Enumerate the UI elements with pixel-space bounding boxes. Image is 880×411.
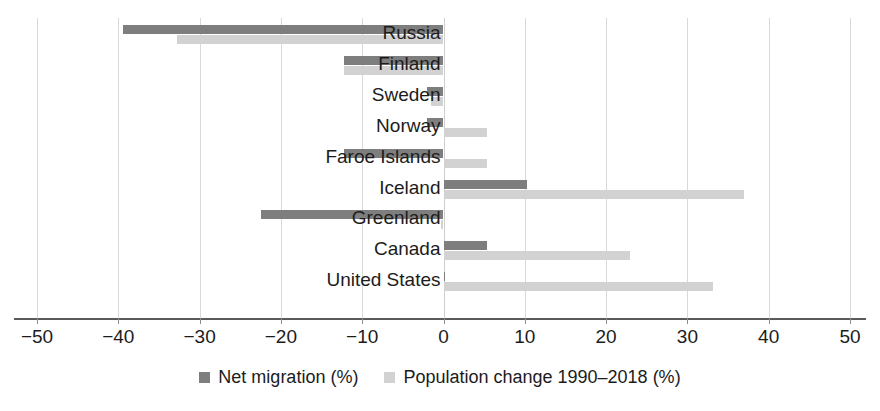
category-label-united-states: United States [1, 268, 441, 292]
tick-mark--20 [281, 318, 282, 324]
tick-mark-20 [606, 318, 607, 324]
bar-net-migration [444, 180, 528, 189]
bar-population-change [444, 159, 488, 168]
bar-chart: RussiaFinlandSwedenNorwayFaroe IslandsIc… [0, 0, 880, 411]
category-label-greenland: Greenland [1, 206, 441, 230]
tick-mark--10 [362, 318, 363, 324]
tick-mark--40 [118, 318, 119, 324]
tick-label-30: 30 [652, 326, 722, 348]
tick-label-10: 10 [490, 326, 560, 348]
legend-swatch-icon [384, 372, 395, 383]
tick-label--10: −10 [327, 326, 397, 348]
tick-label--40: −40 [83, 326, 153, 348]
legend-item-population-change[interactable]: Population change 1990–2018 (%) [384, 367, 680, 388]
tick-label-0: 0 [409, 326, 479, 348]
tick-mark-10 [525, 318, 526, 324]
legend-label: Net migration (%) [218, 367, 358, 388]
x-axis-line [14, 318, 866, 320]
category-label-finland: Finland [1, 52, 441, 76]
category-label-iceland: Iceland [1, 176, 441, 200]
tick-mark--30 [200, 318, 201, 324]
category-label-russia: Russia [1, 21, 441, 45]
tick-label--50: −50 [2, 326, 72, 348]
tick-label--30: −30 [165, 326, 235, 348]
tick-mark-50 [850, 318, 851, 324]
bar-population-change [444, 190, 745, 199]
bar-net-migration [444, 241, 488, 250]
tick-mark--50 [37, 318, 38, 324]
category-label-sweden: Sweden [1, 83, 441, 107]
legend-label: Population change 1990–2018 (%) [403, 367, 680, 388]
category-label-norway: Norway [1, 114, 441, 138]
tick-mark-40 [769, 318, 770, 324]
bar-population-change [444, 251, 631, 260]
tick-label--20: −20 [246, 326, 316, 348]
category-label-faroe-islands: Faroe Islands [1, 145, 441, 169]
tick-mark-0 [444, 318, 445, 324]
category-label-canada: Canada [1, 237, 441, 261]
tick-mark-30 [687, 318, 688, 324]
chart-legend: Net migration (%)Population change 1990–… [0, 362, 880, 392]
tick-label-40: 40 [734, 326, 804, 348]
bar-net-migration [444, 272, 446, 281]
tick-label-50: 50 [815, 326, 880, 348]
bar-population-change [441, 220, 443, 229]
legend-swatch-icon [199, 372, 210, 383]
x-axis: −50−40−30−20−1001020304050 [0, 318, 880, 358]
bar-population-change [444, 128, 488, 137]
plot-area: RussiaFinlandSwedenNorwayFaroe IslandsIc… [0, 0, 880, 318]
bar-population-change [444, 282, 713, 291]
legend-item-net-migration[interactable]: Net migration (%) [199, 367, 358, 388]
tick-label-20: 20 [571, 326, 641, 348]
